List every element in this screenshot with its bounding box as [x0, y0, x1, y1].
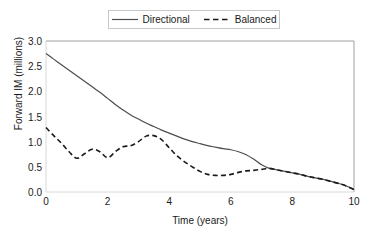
series-line-balanced — [46, 128, 354, 190]
plot-area — [0, 0, 365, 239]
chart-figure: Directional Balanced 0.00.51.01.52.02.53… — [0, 0, 365, 239]
data-series-layer — [46, 54, 354, 190]
series-line-directional — [46, 54, 354, 190]
axis-spines — [46, 41, 354, 192]
